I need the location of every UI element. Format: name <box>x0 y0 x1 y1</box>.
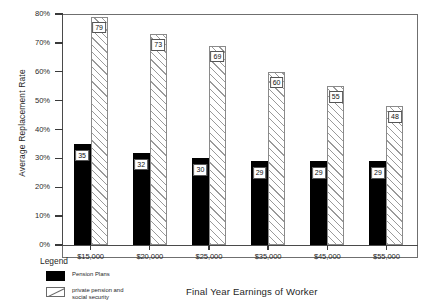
bar-private-pension-social-security: 48 <box>386 106 403 245</box>
bar-pension-plans: 35 <box>74 144 91 245</box>
bar-group: 2955 <box>310 14 344 245</box>
bar-value-label: 29 <box>253 167 267 179</box>
legend-label-private-pension-social-security: private pension and social security <box>72 287 136 300</box>
bar-pension-plans: 30 <box>192 158 209 245</box>
bar-value-label: 69 <box>211 51 225 63</box>
legend-title: Legend <box>40 256 68 266</box>
y-tick <box>55 187 63 188</box>
bar-value-label: 32 <box>134 159 148 171</box>
y-tick-label: 50% <box>10 96 50 105</box>
x-tick-label: $55,000 <box>351 252 421 261</box>
y-tick-label: 80% <box>10 9 50 18</box>
x-tick <box>149 245 150 250</box>
y-tick-label: 20% <box>10 182 50 191</box>
bar-value-label: 30 <box>194 164 208 176</box>
bar-group: 3273 <box>133 14 167 245</box>
x-tick <box>208 245 209 250</box>
bar-value-label: 35 <box>75 150 89 162</box>
y-tick <box>55 71 63 72</box>
y-tick-label: 10% <box>10 211 50 220</box>
x-tick <box>90 245 91 250</box>
legend-item-private-pension-social-security: private pension and social security <box>46 287 136 300</box>
bar-group: 3069 <box>192 14 226 245</box>
plot-area: 357932733069296029552948 <box>63 14 418 245</box>
x-tick <box>386 245 387 250</box>
bar-value-label: 73 <box>151 39 165 51</box>
y-tick-label: 60% <box>10 67 50 76</box>
x-axis-line <box>62 245 418 246</box>
y-tick <box>55 100 63 101</box>
bar-value-label: 29 <box>312 167 326 179</box>
y-tick <box>55 13 63 14</box>
bar-value-label: 29 <box>371 167 385 179</box>
y-tick <box>55 129 63 130</box>
x-tick <box>327 245 328 250</box>
bar-group: 2948 <box>369 14 403 245</box>
bar-private-pension-social-security: 60 <box>268 72 285 245</box>
bar-pension-plans: 29 <box>310 161 327 245</box>
bar-group: 3579 <box>74 14 108 245</box>
y-tick-label: 0% <box>10 240 50 249</box>
y-tick <box>55 215 63 216</box>
legend-label-pension-plans: Pension Plans <box>72 271 110 278</box>
bar-pension-plans: 29 <box>251 161 268 245</box>
y-tick <box>55 158 63 159</box>
y-axis-title: Average Replacement Rate <box>17 23 27 223</box>
bar-value-label: 79 <box>92 22 106 34</box>
bar-group: 2960 <box>251 14 285 245</box>
bar-pension-plans: 32 <box>133 153 150 245</box>
bar-private-pension-social-security: 69 <box>209 46 226 245</box>
legend-swatch-solid-icon <box>46 271 65 281</box>
bar-chart: Average Replacement Rate 0%10%20%30%40%5… <box>0 0 425 308</box>
bar-private-pension-social-security: 55 <box>327 86 344 245</box>
bar-value-label: 55 <box>329 91 343 103</box>
bar-private-pension-social-security: 79 <box>91 17 108 245</box>
y-tick-label: 40% <box>10 125 50 134</box>
y-tick-label: 70% <box>10 38 50 47</box>
x-tick <box>267 245 268 250</box>
legend-item-pension-plans: Pension Plans <box>46 271 110 281</box>
bar-value-label: 60 <box>270 77 284 89</box>
bar-value-label: 48 <box>388 111 402 123</box>
x-axis-title: Final Year Earnings of Worker <box>186 286 318 297</box>
y-tick-label: 30% <box>10 153 50 162</box>
bar-private-pension-social-security: 73 <box>150 34 167 245</box>
y-tick <box>55 42 63 43</box>
legend-swatch-hatch-icon <box>46 287 65 297</box>
bar-pension-plans: 29 <box>369 161 386 245</box>
